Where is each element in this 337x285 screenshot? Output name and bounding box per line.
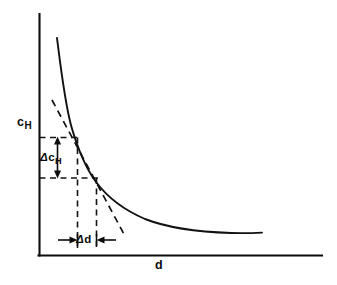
x-axis-label-base: d xyxy=(155,258,163,272)
diagram-canvas xyxy=(0,0,337,285)
tangent-line-group xyxy=(52,100,125,236)
delta-c-label: ΔcH xyxy=(40,152,62,166)
delta-d-symbol: Δ xyxy=(76,233,84,245)
concentration-decay-curve-group xyxy=(57,38,262,233)
delta-d-base: d xyxy=(84,233,91,245)
concentration-decay-curve xyxy=(57,38,262,233)
y-axis-label: cH xyxy=(17,116,32,131)
y-axis-label-base: c xyxy=(17,115,24,129)
y-axis-label-subscript: H xyxy=(24,120,32,131)
delta-c-subscript: H xyxy=(55,156,62,166)
delta-c-base: c xyxy=(48,151,54,163)
tangent-line xyxy=(52,100,125,236)
delta-d-right-arrow-head xyxy=(97,237,105,244)
delta-c-symbol: Δ xyxy=(40,151,48,163)
figure-container: cH d ΔcH Δd xyxy=(0,0,337,285)
x-axis-label: d xyxy=(155,259,163,272)
delta-d-label: Δd xyxy=(76,234,91,246)
axes-group xyxy=(39,14,323,256)
